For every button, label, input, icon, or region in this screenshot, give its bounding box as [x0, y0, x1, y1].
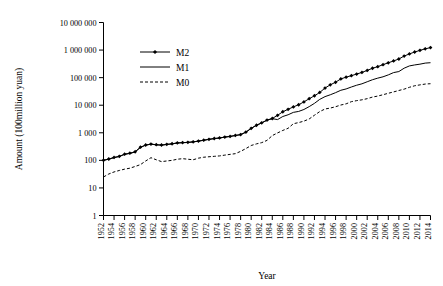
y-tick-label: 1 000 000 — [64, 46, 97, 55]
x-tick-label: 1956 — [118, 223, 127, 239]
x-tick-label: 1962 — [149, 223, 158, 239]
y-tick-label: 1 — [92, 212, 96, 221]
data-point — [371, 66, 375, 70]
series-line-M1 — [104, 63, 431, 161]
data-point — [423, 47, 427, 51]
x-tick-label: 1980 — [244, 223, 253, 239]
data-point — [413, 50, 417, 54]
data-point — [286, 107, 290, 111]
data-point — [344, 75, 348, 79]
legend-label-M1: M1 — [176, 63, 189, 73]
x-tick-label: 2014 — [424, 223, 433, 239]
x-tick-label: 1998 — [339, 223, 348, 239]
legend-label-M0: M0 — [176, 78, 189, 88]
x-tick-label: 1964 — [160, 223, 169, 239]
x-tick-label: 2010 — [402, 223, 411, 239]
data-point — [408, 52, 412, 56]
data-point — [291, 105, 295, 109]
x-tick-label: 2008 — [392, 223, 401, 239]
x-tick-label: 1974 — [213, 223, 222, 239]
data-point — [429, 46, 433, 50]
data-point — [386, 61, 390, 65]
data-point — [355, 72, 359, 76]
y-tick-label: 10 — [88, 184, 96, 193]
y-tick-label: 10 000 000 — [60, 19, 97, 28]
x-tick-label: 1970 — [191, 223, 200, 239]
data-point — [418, 48, 422, 52]
x-axis-title: Year — [258, 271, 276, 281]
data-point — [402, 54, 406, 58]
x-tick-label: 1984 — [265, 223, 274, 239]
x-tick-label: 2012 — [413, 223, 422, 239]
x-tick-label: 2006 — [381, 223, 390, 239]
x-tick-label: 1978 — [234, 223, 243, 239]
x-tick-label: 1990 — [297, 223, 306, 239]
x-tick-label: 2002 — [360, 223, 369, 239]
y-axis-title: Amount (100million yuan) — [14, 68, 25, 170]
series-line-M0 — [104, 84, 431, 177]
data-point — [397, 57, 401, 61]
x-tick-label: 1958 — [128, 223, 137, 239]
data-point — [392, 59, 396, 63]
x-tick-label: 1960 — [139, 223, 148, 239]
data-point — [297, 103, 301, 107]
x-tick-label: 2004 — [371, 223, 380, 239]
legend-marker-M2 — [153, 50, 157, 54]
x-tick-label: 1992 — [307, 223, 316, 239]
x-tick-label: 1954 — [107, 223, 116, 239]
x-tick-label: 1994 — [318, 223, 327, 239]
data-point — [349, 74, 353, 78]
data-point — [381, 63, 385, 67]
line-chart: 1101001 00010 000100 0001 000 00010 000 … — [0, 0, 443, 286]
x-tick-label: 1968 — [181, 223, 190, 239]
y-tick-label: 10 000 — [74, 101, 97, 110]
data-point — [376, 65, 380, 69]
x-tick-label: 1976 — [223, 223, 232, 239]
data-point — [365, 69, 369, 73]
y-tick-label: 100 — [84, 156, 96, 165]
chart-container: 1101001 00010 000100 0001 000 00010 000 … — [0, 0, 443, 286]
data-point — [360, 70, 364, 74]
x-tick-label: 1952 — [97, 223, 106, 239]
y-tick-label: 1 000 — [78, 129, 96, 138]
x-tick-label: 1972 — [202, 223, 211, 239]
chart-legend: M2M1M0 — [140, 48, 189, 88]
legend-label-M2: M2 — [176, 48, 189, 58]
x-tick-label: 1988 — [286, 223, 295, 239]
x-tick-label: 1966 — [170, 223, 179, 239]
x-tick-label: 2000 — [350, 223, 359, 239]
x-tick-label: 1986 — [276, 223, 285, 239]
x-tick-label: 1982 — [255, 223, 264, 239]
y-tick-label: 100 000 — [70, 74, 97, 83]
x-tick-label: 1996 — [329, 223, 338, 239]
